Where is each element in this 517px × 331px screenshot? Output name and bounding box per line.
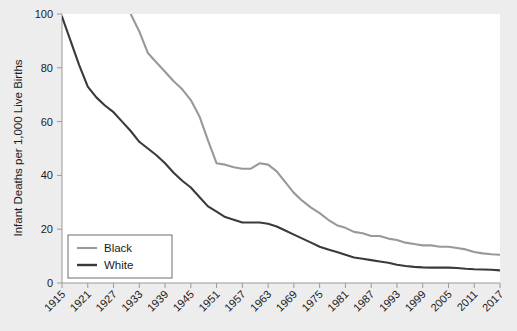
chart-figure: 020406080100 191519211927193319391945195…	[0, 0, 517, 331]
legend-label-white: White	[104, 259, 133, 271]
legend: Black White	[68, 235, 172, 278]
y-tick-label: 100	[35, 8, 53, 20]
chart-svg: 020406080100 191519211927193319391945195…	[0, 0, 517, 331]
y-tick-label: 0	[47, 277, 53, 289]
y-tick-label: 20	[41, 223, 53, 235]
y-tick-label: 60	[41, 116, 53, 128]
legend-label-black: Black	[104, 242, 132, 254]
y-tick-label: 40	[41, 169, 53, 181]
y-tick-label: 80	[41, 62, 53, 74]
y-axis-title: Infant Deaths per 1,000 Live Births	[12, 59, 24, 236]
